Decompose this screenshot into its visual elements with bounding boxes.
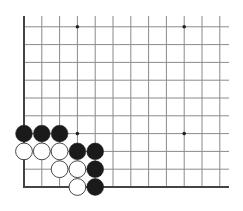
white-stone — [16, 143, 33, 160]
star-point — [76, 25, 80, 29]
black-stone — [87, 143, 104, 160]
black-stone — [87, 179, 104, 196]
grid-lines — [24, 16, 229, 187]
white-stone — [69, 179, 86, 196]
white-stone — [69, 161, 86, 178]
white-stone — [51, 161, 68, 178]
go-board — [0, 0, 243, 211]
black-stone — [16, 125, 33, 142]
white-stone — [33, 143, 50, 160]
white-stone — [51, 143, 68, 160]
board-edges — [23, 16, 229, 188]
star-point — [76, 132, 80, 136]
star-point — [182, 132, 186, 136]
star-point — [182, 25, 186, 29]
black-stone — [87, 161, 104, 178]
black-stone — [33, 125, 50, 142]
black-stone — [69, 143, 86, 160]
black-stone — [51, 125, 68, 142]
